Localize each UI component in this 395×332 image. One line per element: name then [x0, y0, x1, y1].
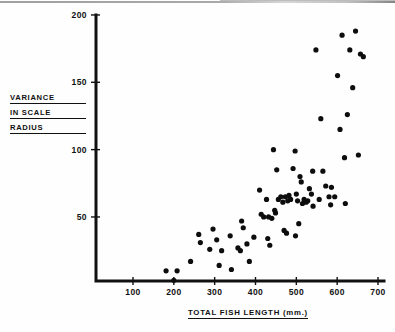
data-point	[297, 174, 302, 179]
data-point	[307, 186, 312, 191]
y-tick-label-200: 200	[72, 10, 87, 20]
data-point	[171, 278, 176, 283]
scatter-plot-figure: 50100150200 100200300400500600700 VARIAN…	[0, 0, 395, 332]
data-point	[247, 259, 252, 264]
data-point	[239, 218, 244, 223]
data-point	[332, 194, 337, 199]
data-point	[343, 201, 348, 206]
y-axis-title: VARIANCE IN SCALE RADIUS	[10, 93, 86, 138]
data-point	[188, 259, 193, 264]
data-point	[241, 225, 246, 230]
data-point	[267, 243, 272, 248]
data-point	[347, 47, 352, 52]
y-axis-title-line-3: RADIUS	[10, 123, 86, 134]
data-point	[339, 33, 344, 38]
data-point	[328, 202, 333, 207]
data-point	[293, 148, 298, 153]
data-point	[342, 155, 347, 160]
data-point	[323, 183, 328, 188]
data-point	[309, 191, 314, 196]
data-point	[345, 112, 350, 117]
data-point	[278, 194, 283, 199]
data-point	[313, 47, 318, 52]
x-tick-label-100: 100	[125, 287, 140, 297]
data-point	[335, 73, 340, 78]
data-point	[264, 197, 269, 202]
data-point	[356, 152, 361, 157]
x-tick-label-600: 600	[329, 287, 344, 297]
data-points	[163, 29, 365, 283]
data-point	[244, 241, 249, 246]
y-axis-title-line-2: IN SCALE	[10, 108, 86, 119]
data-point	[257, 187, 262, 192]
data-point	[296, 221, 301, 226]
data-point	[229, 267, 234, 272]
data-point	[295, 198, 300, 203]
data-point	[198, 240, 203, 245]
x-tick-label-400: 400	[248, 287, 263, 297]
data-point	[207, 247, 212, 252]
data-point	[317, 197, 322, 202]
x-axis-tick-labels: 100200300400500600700	[125, 287, 385, 297]
data-point	[288, 197, 293, 202]
y-tick-label-50: 50	[77, 212, 87, 222]
data-point	[261, 214, 266, 219]
data-point	[290, 166, 295, 171]
data-point	[210, 226, 215, 231]
data-point	[284, 231, 289, 236]
axis-lines	[96, 15, 384, 281]
y-tick-label-150: 150	[72, 77, 87, 87]
y-axis-title-line-1: VARIANCE	[10, 93, 86, 104]
data-point	[350, 85, 355, 90]
data-point	[228, 233, 233, 238]
data-point	[320, 169, 325, 174]
x-axis-title: TOTAL FISH LENGTH (mm.)	[188, 308, 308, 319]
data-point	[271, 147, 276, 152]
data-point	[337, 127, 342, 132]
data-point	[310, 169, 315, 174]
data-point	[251, 235, 256, 240]
data-point	[265, 236, 270, 241]
data-point	[294, 191, 299, 196]
data-point	[299, 179, 304, 184]
data-point	[196, 232, 201, 237]
data-point	[214, 237, 219, 242]
y-tick-label-100: 100	[72, 145, 87, 155]
data-point	[353, 29, 358, 34]
data-point	[280, 200, 285, 205]
data-point	[361, 54, 366, 59]
x-tick-label-500: 500	[289, 287, 304, 297]
data-point	[273, 210, 278, 215]
x-tick-label-300: 300	[207, 287, 222, 297]
data-point	[329, 185, 334, 190]
x-tick-label-200: 200	[166, 287, 181, 297]
data-point	[269, 216, 274, 221]
data-point	[217, 263, 222, 268]
data-point	[310, 204, 315, 209]
data-point	[238, 248, 243, 253]
data-point	[318, 116, 323, 121]
data-point	[305, 198, 310, 203]
data-point	[219, 248, 224, 253]
data-point	[326, 194, 331, 199]
axes	[96, 15, 384, 281]
data-point	[274, 167, 279, 172]
data-point	[293, 233, 298, 238]
x-tick-label-700: 700	[370, 287, 385, 297]
data-point	[175, 268, 180, 273]
plot-canvas: 50100150200 100200300400500600700	[0, 0, 395, 332]
data-point	[163, 268, 168, 273]
